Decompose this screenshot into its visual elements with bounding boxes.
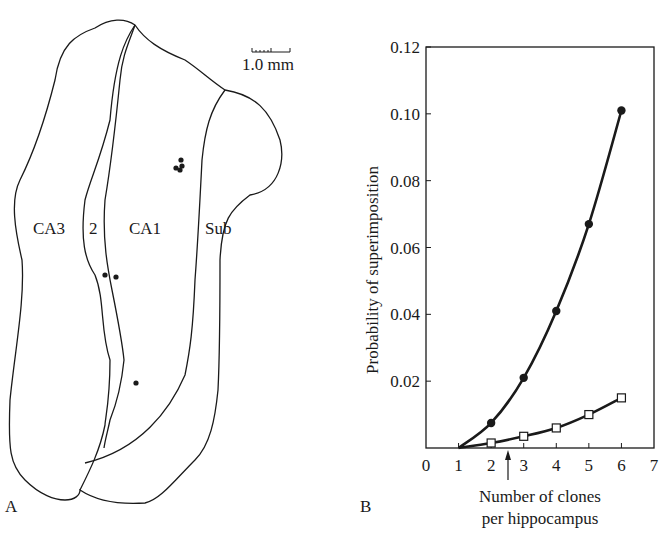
clone-dot [133, 380, 138, 385]
data-point-square [585, 411, 593, 419]
panel-label-a: A [5, 497, 18, 516]
panel-label-b: B [360, 497, 371, 516]
region-label-ca1: CA1 [129, 219, 161, 238]
clone-dot [102, 272, 107, 277]
y-axis-label: Probability of superimposition [363, 166, 382, 374]
y-axis-ticks: 0.020.040.060.080.100.12 [390, 38, 431, 391]
clone-dot [178, 157, 183, 162]
x-tick-label: 2 [487, 456, 496, 475]
y-tick-label: 0.06 [390, 239, 420, 258]
data-point-square [552, 424, 560, 432]
series-line [459, 398, 622, 448]
y-tick-label: 0.02 [390, 372, 420, 391]
y-tick-label: 0.08 [390, 172, 420, 191]
x-tick-label: 5 [585, 456, 594, 475]
figure: 1.0 mm CA3 2 CA1 Sub A 0.020.040.060.080… [0, 0, 660, 541]
x-tick-label: 0 [422, 456, 431, 475]
data-point-square [487, 439, 495, 447]
x-tick-label: 3 [519, 456, 528, 475]
hippocampus-diagram [9, 20, 281, 503]
region-label-sub: Sub [205, 219, 231, 238]
series-line [459, 110, 622, 448]
chart: 0.020.040.060.080.100.12 01234567 Probab… [363, 38, 659, 528]
data-point-square [520, 432, 528, 440]
region-label-ca2: 2 [89, 219, 98, 238]
x-tick-label: 4 [552, 456, 561, 475]
ca3-ca2-boundary [80, 25, 135, 490]
data-point-circle [520, 374, 528, 382]
data-series [459, 106, 626, 448]
data-point-circle [585, 220, 593, 228]
scale-bar [252, 48, 290, 52]
data-point-circle [617, 106, 625, 114]
y-tick-label: 0.12 [390, 38, 420, 57]
data-point-circle [552, 307, 560, 315]
x-tick-label: 1 [454, 456, 463, 475]
clone-dots [102, 157, 184, 385]
x-tick-label: 6 [617, 456, 626, 475]
y-tick-label: 0.04 [390, 305, 420, 324]
region-label-ca3: CA3 [33, 219, 65, 238]
data-point-square [617, 394, 625, 402]
y-tick-label: 0.10 [390, 105, 420, 124]
clone-dot [179, 163, 184, 168]
x-axis-label-line-1: Number of clones [479, 487, 601, 506]
arrow-annotation-icon [505, 450, 511, 480]
x-tick-label: 7 [650, 456, 659, 475]
scale-bar-label: 1.0 mm [242, 55, 294, 74]
data-point-circle [487, 419, 495, 427]
clone-dot [113, 274, 118, 279]
x-axis-label-line-2: per hippocampus [482, 509, 599, 528]
